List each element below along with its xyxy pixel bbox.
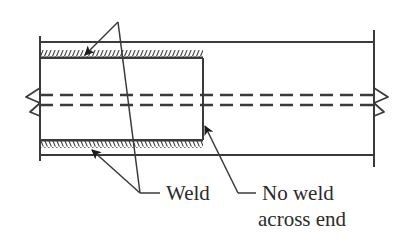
break-symbol-left (26, 78, 40, 128)
weld-top-leader-tail (118, 22, 140, 193)
leader-lines (85, 22, 256, 193)
weld-hatch-bottom (40, 141, 203, 148)
no-weld-label-line2: across end (258, 207, 347, 231)
callout-labels: Weld No weld across end (166, 181, 347, 231)
pipe-centerline (40, 95, 374, 105)
break-symbol-right (374, 78, 388, 128)
weld-band-bottom (40, 141, 203, 149)
weld-detail-figure: Weld No weld across end (0, 0, 411, 246)
weld-bottom-leader (92, 150, 140, 193)
weld-label: Weld (166, 181, 210, 205)
no-weld-label-line1: No weld (262, 181, 334, 205)
no-weld-leader (205, 126, 238, 193)
diagram-canvas: Weld No weld across end (0, 0, 411, 246)
